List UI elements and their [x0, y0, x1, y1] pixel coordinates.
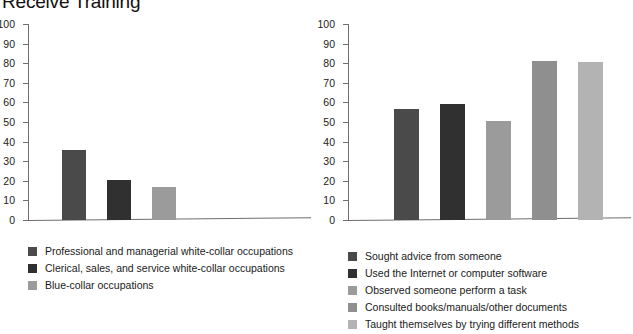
- legend-item-left-3: Blue-collar occupations: [28, 277, 293, 293]
- y-tick-label-left-20: 20: [3, 176, 15, 187]
- legend-item-left-1: Professional and managerial white-collar…: [28, 243, 293, 259]
- bar-right-4: [532, 61, 557, 220]
- legend-label-right-2: Used the Internet or computer software: [365, 268, 547, 279]
- y-tick-label-left-100: 100: [0, 19, 15, 30]
- y-tick-label-right-70: 70: [323, 78, 335, 89]
- y-tick-right-0: 0: [343, 220, 348, 221]
- plot-area-right: 0102030405060708090100: [348, 24, 631, 226]
- y-tick-label-left-40: 40: [3, 136, 15, 147]
- y-tick-label-right-100: 100: [317, 19, 335, 30]
- legend-item-right-2: Used the Internet or computer software: [348, 265, 579, 281]
- y-tick-label-left-90: 90: [3, 38, 15, 49]
- y-tick-label-right-40: 40: [323, 136, 335, 147]
- legend-swatch-icon-left-1: [28, 247, 37, 256]
- legend-item-right-4: Consulted books/manuals/other documents: [348, 299, 579, 315]
- bar-left-2: [107, 180, 131, 220]
- legend-label-right-4: Consulted books/manuals/other documents: [365, 302, 567, 313]
- legend-swatch-icon-right-2: [348, 269, 357, 278]
- chart-panel-left: 0102030405060708090100 Professional and …: [0, 0, 313, 334]
- bar-left-1: [62, 150, 86, 220]
- y-tick-label-right-90: 90: [323, 38, 335, 49]
- figure-page: { "page": { "title": "Receive Training" …: [0, 0, 633, 334]
- legend-label-right-5: Taught themselves by trying different me…: [365, 319, 579, 330]
- legend-swatch-icon-right-3: [348, 286, 357, 295]
- y-tick-label-left-70: 70: [3, 78, 15, 89]
- y-tick-label-right-50: 50: [323, 117, 335, 128]
- y-tick-label-left-10: 10: [3, 195, 15, 206]
- y-tick-label-right-0: 0: [329, 215, 335, 226]
- y-tick-label-left-30: 30: [3, 156, 15, 167]
- legend-swatch-icon-right-5: [348, 320, 357, 329]
- legend-item-right-1: Sought advice from someone: [348, 248, 579, 264]
- legend-label-left-2: Clerical, sales, and service white-colla…: [45, 263, 285, 274]
- y-tick-label-left-50: 50: [3, 117, 15, 128]
- y-tick-label-left-0: 0: [9, 215, 15, 226]
- bars-right: [348, 24, 631, 220]
- y-tick-label-left-80: 80: [3, 58, 15, 69]
- y-tick-label-right-80: 80: [323, 58, 335, 69]
- bar-right-2: [440, 104, 465, 220]
- legend-left: Professional and managerial white-collar…: [28, 243, 293, 294]
- bar-right-3: [486, 121, 511, 220]
- legend-label-right-3: Observed someone perform a task: [365, 285, 527, 296]
- bar-right-1: [394, 109, 419, 220]
- y-tick-left-0: 0: [23, 220, 28, 221]
- legend-right: Sought advice from someoneUsed the Inter…: [348, 248, 579, 333]
- legend-swatch-icon-left-2: [28, 264, 37, 273]
- legend-item-right-5: Taught themselves by trying different me…: [348, 316, 579, 332]
- legend-item-left-2: Clerical, sales, and service white-colla…: [28, 260, 293, 276]
- plot-area-left: 0102030405060708090100: [28, 24, 311, 226]
- chart-panel-right: 0102030405060708090100 Sought advice fro…: [320, 0, 633, 334]
- y-tick-label-right-60: 60: [323, 97, 335, 108]
- y-tick-label-right-20: 20: [323, 176, 335, 187]
- bar-left-3: [152, 187, 176, 220]
- legend-swatch-icon-right-4: [348, 303, 357, 312]
- legend-swatch-icon-left-3: [28, 281, 37, 290]
- y-tick-label-right-30: 30: [323, 156, 335, 167]
- legend-item-right-3: Observed someone perform a task: [348, 282, 579, 298]
- legend-label-right-1: Sought advice from someone: [365, 251, 502, 262]
- bar-right-5: [578, 62, 603, 220]
- legend-label-left-1: Professional and managerial white-collar…: [45, 246, 293, 257]
- bars-left: [28, 24, 311, 220]
- y-tick-label-right-10: 10: [323, 195, 335, 206]
- legend-swatch-icon-right-1: [348, 252, 357, 261]
- legend-label-left-3: Blue-collar occupations: [45, 280, 154, 291]
- y-tick-label-left-60: 60: [3, 97, 15, 108]
